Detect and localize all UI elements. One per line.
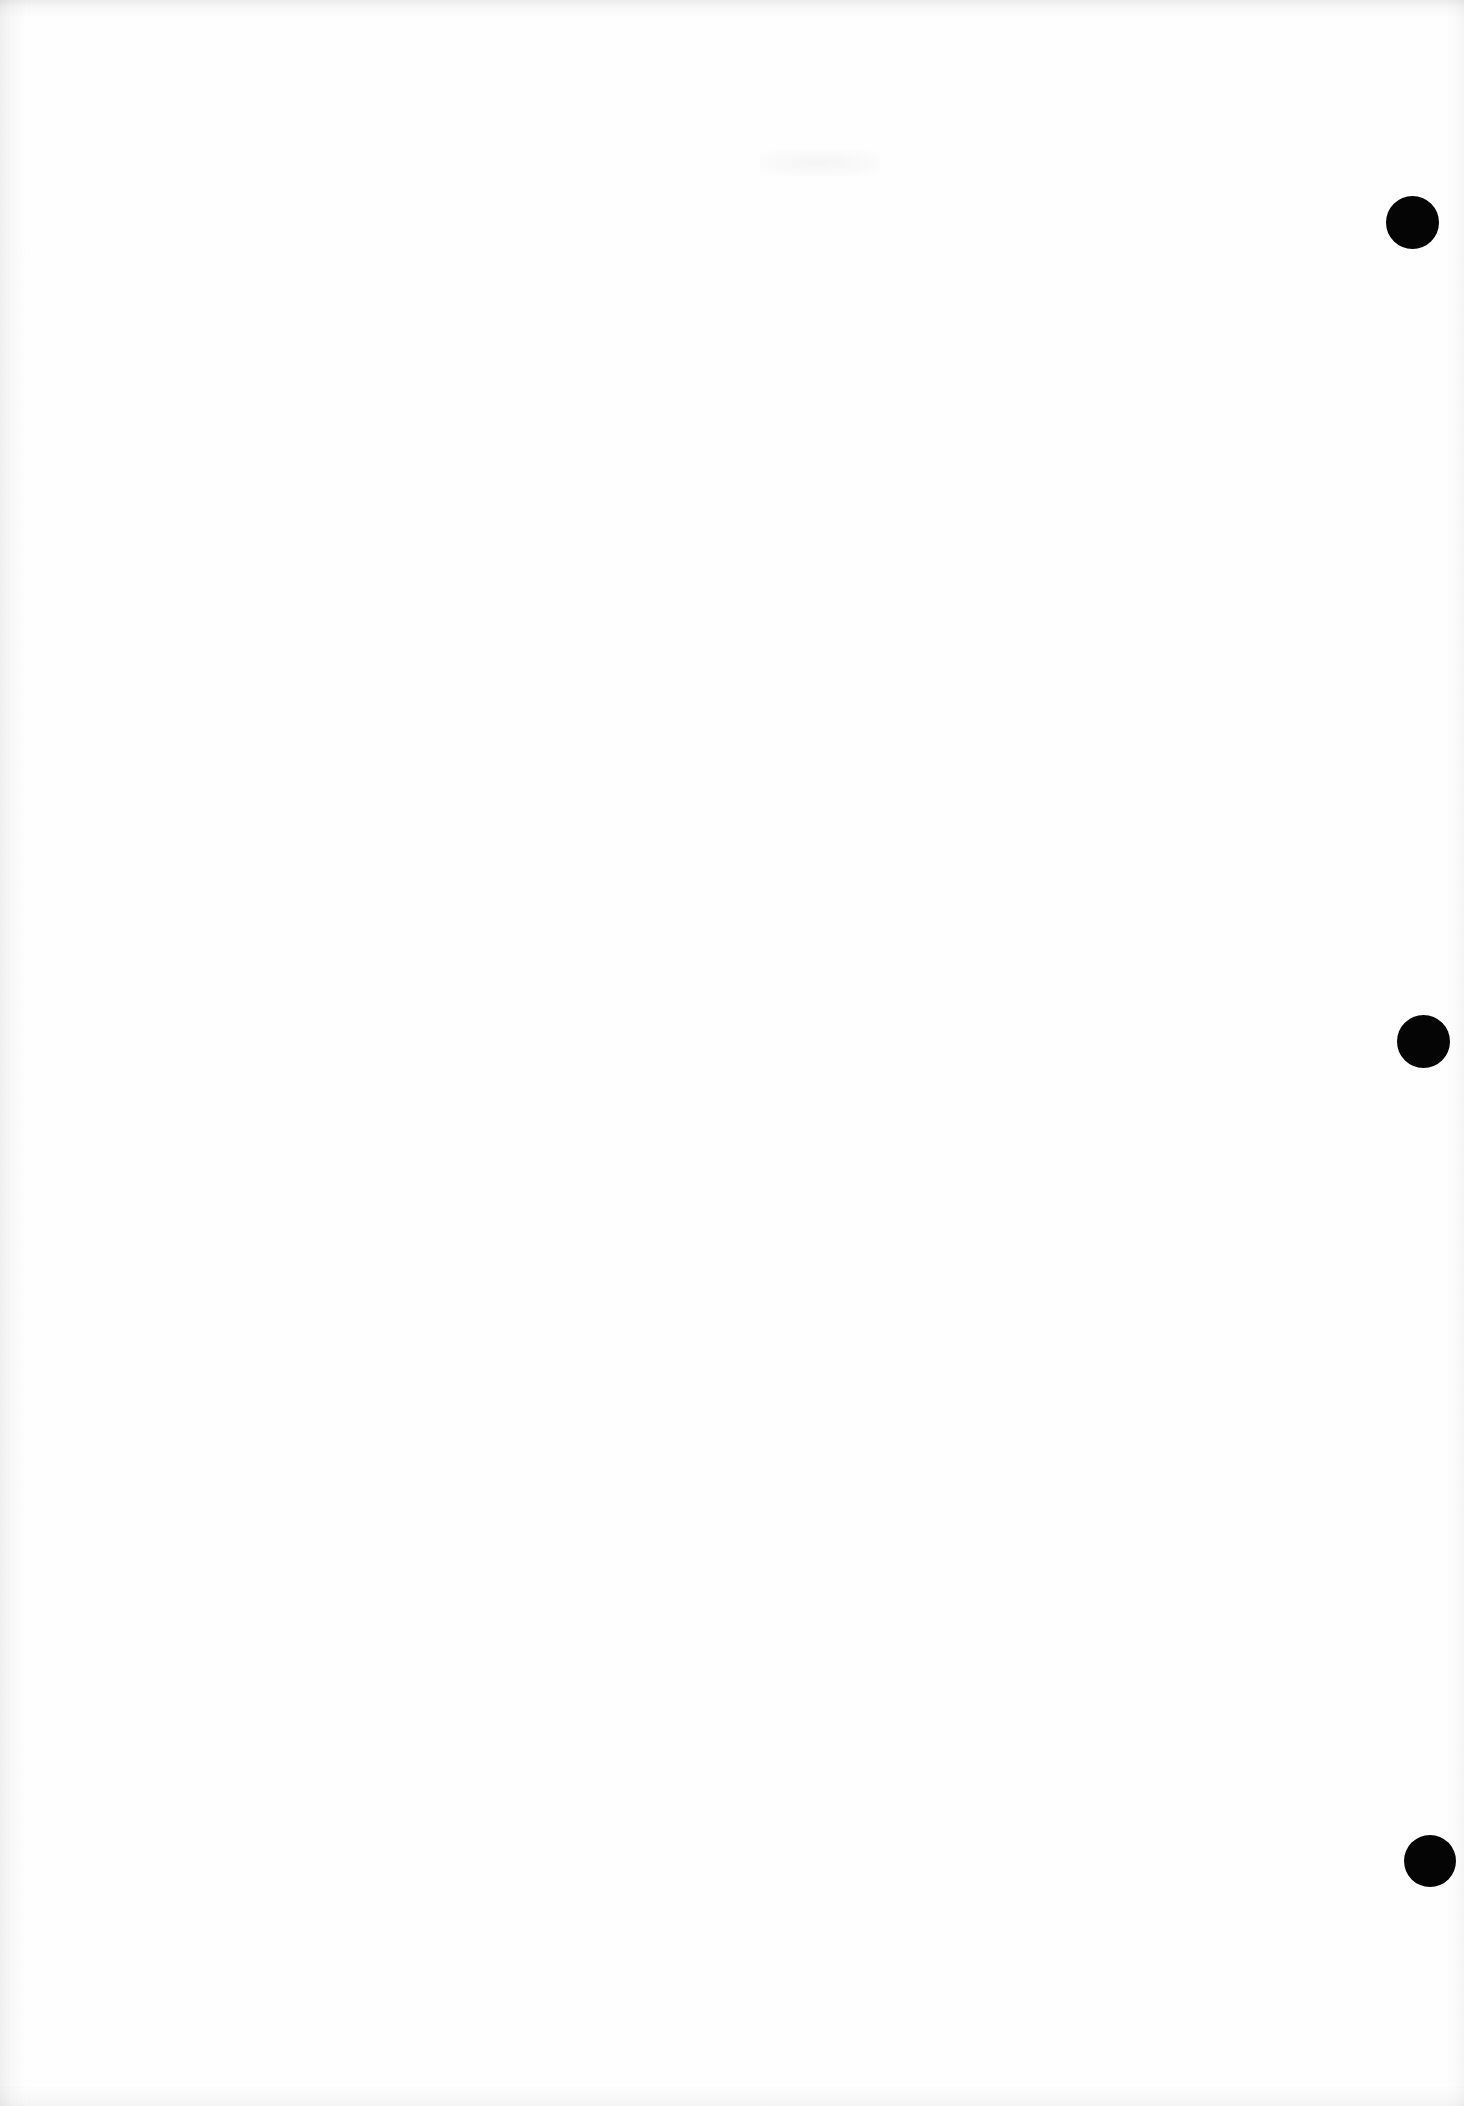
scanned-page [0, 0, 1464, 2106]
mark-dot-middle [1397, 1015, 1450, 1068]
mark-dot-bottom [1404, 1835, 1456, 1887]
page-content-area [0, 0, 1464, 2106]
blank-body-region [90, 120, 1320, 2000]
mark-dot-top [1386, 196, 1439, 249]
